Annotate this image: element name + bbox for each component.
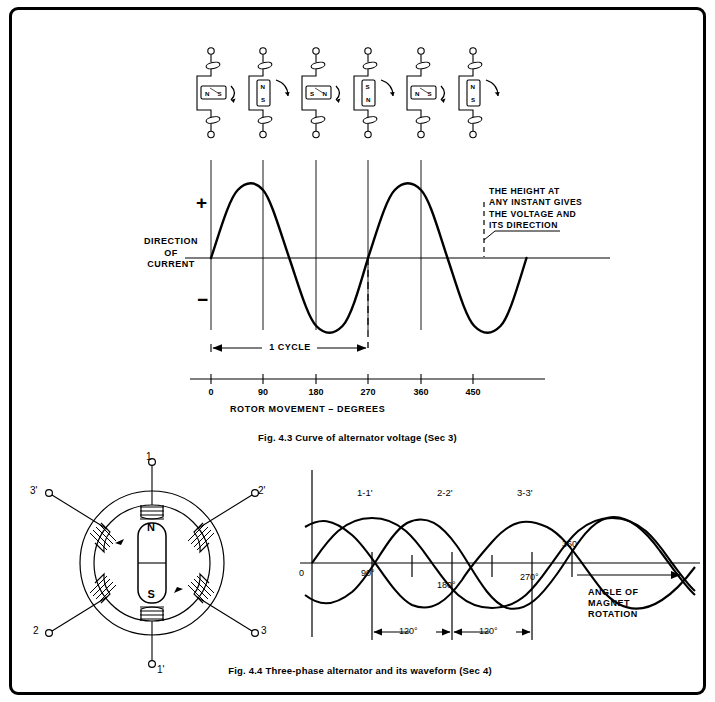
magnet-pole-label: N xyxy=(323,90,328,97)
degree-axis xyxy=(190,374,545,384)
magnet-stage-3 xyxy=(302,48,341,138)
magnet-pole-label: S xyxy=(218,90,222,97)
rotation-arrow xyxy=(174,587,183,593)
magnet-pole-label: S xyxy=(428,90,432,97)
phase-tick-360: 360 xyxy=(562,539,577,549)
magnet-stage-2 xyxy=(249,48,290,138)
x-axis-title: ROTOR MOVEMENT – DEGREES xyxy=(230,404,385,414)
magnet-pole-label: S xyxy=(471,96,475,103)
rotor-north-label: N xyxy=(147,521,155,533)
terminal-label-2prime: 2' xyxy=(258,485,265,496)
magnet-pole-label: N xyxy=(415,90,420,97)
phase-spacing-label-1: 120° xyxy=(399,626,418,636)
magnet-stage-6 xyxy=(459,48,500,138)
x-tick-180: 180 xyxy=(303,387,329,397)
voltage-height-callout: THE HEIGHT AT ANY INSTANT GIVES THE VOLT… xyxy=(489,186,699,232)
phase-label-1: 1-1' xyxy=(357,487,373,498)
figure-4-3-caption: Fig. 4.3 Curve of alternator voltage (Se… xyxy=(0,432,715,443)
one-cycle-label: 1 CYCLE xyxy=(262,342,318,352)
magnet-pole-label: N xyxy=(205,90,210,97)
magnet-pole-label: N xyxy=(261,83,266,90)
phase-tick-270: 270° xyxy=(520,572,539,582)
rotor-south-label: S xyxy=(148,588,155,600)
magnet-pole-label: S xyxy=(310,90,314,97)
magnet-stage-1 xyxy=(197,48,236,138)
rotation-arrow xyxy=(115,539,124,545)
x-tick-360: 360 xyxy=(408,387,434,397)
magnet-stage-4 xyxy=(354,48,395,138)
terminal-label-3: 3 xyxy=(261,625,267,636)
x-tick-270: 270 xyxy=(355,387,381,397)
magnet-pole-label: S xyxy=(261,96,265,103)
polarity-minus-sign: − xyxy=(197,290,208,309)
magnet-pole-label: N xyxy=(366,96,371,103)
page-root: N S N S xyxy=(0,0,715,702)
callout-leader-line xyxy=(484,231,560,240)
alternator-cross-section xyxy=(46,459,259,668)
magnet-pole-label: N xyxy=(471,83,476,90)
direction-of-current-label: DIRECTION OF CURRENT xyxy=(134,236,208,271)
polarity-plus-sign: + xyxy=(196,193,207,212)
phase-tick-180: 180° xyxy=(437,580,456,590)
terminal-label-1: 1 xyxy=(146,451,152,462)
angle-of-rotation-label: ANGLE OF MAGNET ROTATION xyxy=(588,587,639,620)
x-tick-450: 450 xyxy=(460,387,486,397)
phase-tick-90: 90° xyxy=(361,568,375,578)
magnet-stage-5 xyxy=(407,48,446,138)
x-tick-90: 90 xyxy=(252,387,274,397)
magnet-pole-label: S xyxy=(366,83,370,90)
terminal-label-3prime: 3' xyxy=(30,485,37,496)
x-tick-0: 0 xyxy=(201,387,221,397)
phase-origin-label: 0 xyxy=(299,568,304,578)
terminal-label-2: 2 xyxy=(33,625,39,636)
figure-4-4-caption: Fig. 4.4 Three-phase alternator and its … xyxy=(130,665,590,676)
phase-spacing-label-2: 120° xyxy=(479,626,498,636)
phase-label-3: 3-3' xyxy=(517,487,533,498)
phase-label-2: 2-2' xyxy=(437,487,453,498)
